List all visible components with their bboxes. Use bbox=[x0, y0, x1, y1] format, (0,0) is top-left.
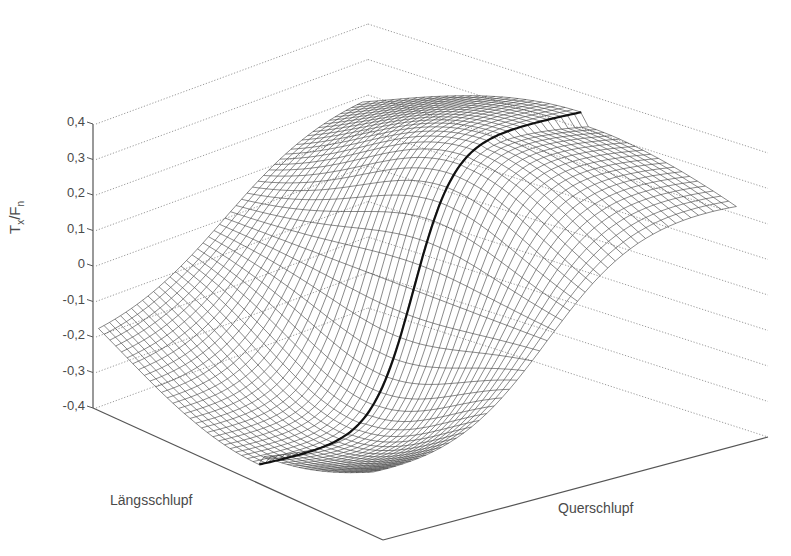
x-axis-label: Längsschlupf bbox=[110, 492, 193, 508]
z-tick-label: 0,1 bbox=[41, 221, 85, 236]
y-axis-label: Querschlupf bbox=[558, 500, 633, 516]
z-tick-label: -0,3 bbox=[41, 363, 85, 378]
z-tick-label: 0,4 bbox=[41, 114, 85, 129]
back-grid-lines bbox=[96, 24, 768, 437]
z-tick-label: 0,3 bbox=[41, 150, 85, 165]
z-tick-label: -0,1 bbox=[41, 292, 85, 307]
surface-plot bbox=[0, 0, 791, 556]
z-axis-label: Tx/Fn bbox=[6, 201, 26, 234]
z-tick-label: 0 bbox=[41, 256, 85, 271]
z-tick-label: -0,4 bbox=[41, 398, 85, 413]
z-tick-label: 0,2 bbox=[41, 185, 85, 200]
surface-mesh bbox=[99, 96, 737, 473]
z-tick-label: -0,2 bbox=[41, 327, 85, 342]
